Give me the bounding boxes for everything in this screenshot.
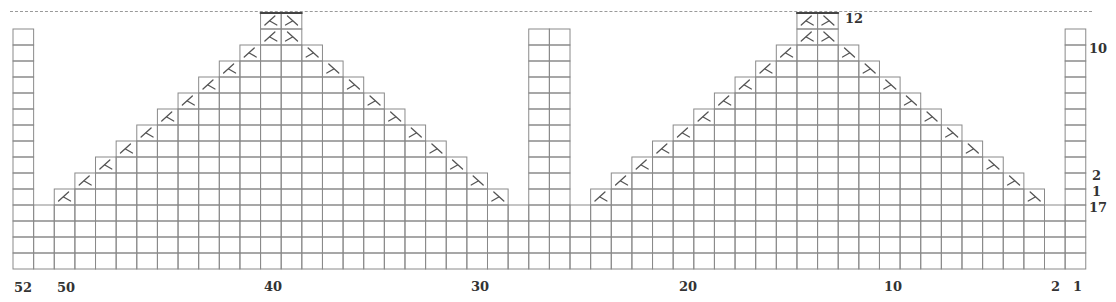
stitch-cell (570, 237, 591, 253)
stitch-cell (714, 221, 735, 237)
stitch-cell (281, 205, 302, 221)
stitch-cell (529, 125, 550, 141)
stitch-cell (384, 205, 405, 221)
stitch-cell (694, 237, 715, 253)
stitch-cell (54, 237, 75, 253)
stitch-cell (446, 173, 467, 189)
stitch-cell (611, 237, 632, 253)
stitch-cell (714, 125, 735, 141)
stitch-cell (776, 93, 797, 109)
stitch-cell (137, 173, 158, 189)
stitch-cell (343, 93, 364, 109)
stitch-cell (673, 157, 694, 173)
stitch-cell (879, 253, 900, 269)
stitch-cell (818, 253, 839, 269)
stitch-cell (487, 221, 508, 237)
stitch-cell (281, 45, 302, 61)
stitch-cell (261, 77, 282, 93)
stitch-cell (343, 189, 364, 205)
stitch-cell (921, 189, 942, 205)
k2tog-decrease-icon (492, 192, 504, 201)
stitch-cell (137, 221, 158, 237)
stitch-cell (96, 253, 117, 269)
stitch-cell (13, 61, 34, 77)
row-label-1: 1 (1092, 185, 1101, 199)
stitch-cell (983, 237, 1004, 253)
stitch-cell (859, 141, 880, 157)
stitch-cell (467, 189, 488, 205)
stitch-cell (322, 109, 343, 125)
stitch-cell (405, 141, 426, 157)
stitch-cell (302, 157, 323, 173)
knitting-chart: 52 50 40 30 20 10 2 1 12 10 2 1 17 (0, 0, 1116, 302)
stitch-cell (776, 77, 797, 93)
stitch-cell (941, 157, 962, 173)
stitch-cell (240, 205, 261, 221)
stitch-cell (343, 173, 364, 189)
stitch-cell (653, 253, 674, 269)
stitch-cell (54, 205, 75, 221)
stitch-cell (549, 157, 570, 173)
stitch-cell (384, 221, 405, 237)
stitch-cell (178, 125, 199, 141)
stitch-cell (13, 141, 34, 157)
stitch-cell (240, 237, 261, 253)
decrease-stitch-cell (426, 141, 447, 157)
k2tog-decrease-icon (843, 48, 855, 57)
stitch-cell (756, 109, 777, 125)
stitch-cell (838, 125, 859, 141)
stitch-cell (1065, 141, 1086, 157)
col-label-30: 30 (471, 280, 489, 294)
stitch-cell (178, 157, 199, 173)
k2tog-decrease-icon (286, 32, 298, 41)
stitch-cell (199, 221, 220, 237)
stitch-cell (632, 253, 653, 269)
stitch-cell (1065, 29, 1086, 45)
stitch-cell (322, 237, 343, 253)
stitch-cell (426, 157, 447, 173)
stitch-cell (75, 205, 96, 221)
stitch-cell (611, 189, 632, 205)
stitch-cell (219, 205, 240, 221)
ssk-decrease-icon (244, 48, 256, 57)
stitch-cell (591, 253, 612, 269)
stitch-cell (219, 93, 240, 109)
k2tog-decrease-icon (327, 64, 339, 73)
decrease-stitch-cell (261, 13, 282, 29)
stitch-cell (322, 221, 343, 237)
decrease-stitch-cell (776, 45, 797, 61)
stitch-cell (591, 237, 612, 253)
stitch-cell (529, 237, 550, 253)
decrease-stitch-cell (818, 29, 839, 45)
stitch-cell (240, 253, 261, 269)
stitch-cell (426, 173, 447, 189)
stitch-cell (776, 253, 797, 269)
stitch-cell (859, 93, 880, 109)
k2tog-decrease-icon (904, 96, 916, 105)
stitch-cell (240, 189, 261, 205)
stitch-cell (13, 157, 34, 173)
stitch-cell (962, 237, 983, 253)
stitch-cell (879, 221, 900, 237)
stitch-cell (859, 205, 880, 221)
stitch-cell (508, 221, 529, 237)
stitch-cell (219, 253, 240, 269)
stitch-cell (797, 157, 818, 173)
stitch-cell (116, 221, 137, 237)
k2tog-decrease-icon (987, 160, 999, 169)
stitch-cell (529, 189, 550, 205)
stitch-cell (157, 221, 178, 237)
k2tog-decrease-icon (409, 128, 421, 137)
ssk-decrease-icon (59, 192, 71, 201)
stitch-cell (75, 221, 96, 237)
stitch-cell (34, 253, 55, 269)
stitch-cell (1045, 221, 1066, 237)
ssk-decrease-icon (636, 160, 648, 169)
stitch-cell (549, 29, 570, 45)
stitch-cell (54, 221, 75, 237)
stitch-cell (549, 253, 570, 269)
stitch-cell (797, 61, 818, 77)
decrease-stitch-cell (818, 13, 839, 29)
stitch-cell (446, 189, 467, 205)
k2tog-decrease-icon (1008, 176, 1020, 185)
